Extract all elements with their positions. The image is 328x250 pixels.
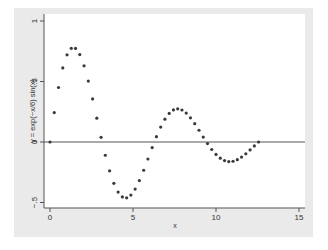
data-point bbox=[236, 158, 239, 161]
y-tick-label: 1 bbox=[30, 18, 39, 23]
x-tick-label: 5 bbox=[131, 213, 136, 222]
data-point bbox=[172, 108, 175, 111]
data-point bbox=[257, 140, 260, 143]
data-point bbox=[163, 118, 166, 121]
data-point bbox=[142, 169, 145, 172]
data-point bbox=[214, 153, 217, 156]
data-point bbox=[155, 135, 158, 138]
data-point bbox=[185, 111, 188, 114]
data-point bbox=[227, 160, 230, 163]
data-point bbox=[219, 157, 222, 160]
data-point bbox=[168, 112, 171, 115]
data-point bbox=[117, 190, 120, 193]
data-point bbox=[53, 111, 56, 114]
data-point bbox=[244, 152, 247, 155]
data-point bbox=[104, 154, 107, 157]
data-point bbox=[78, 53, 81, 56]
data-point bbox=[202, 135, 205, 138]
data-point bbox=[240, 156, 243, 159]
data-point bbox=[82, 64, 85, 67]
data-point bbox=[193, 122, 196, 125]
data-point bbox=[70, 47, 73, 50]
data-point bbox=[146, 157, 149, 160]
data-point bbox=[95, 117, 98, 120]
data-point bbox=[138, 179, 141, 182]
data-point bbox=[108, 169, 111, 172]
chart: 051015−.50.51 x y = exp(−x/6) sin(x) bbox=[0, 0, 328, 250]
data-point bbox=[197, 129, 200, 132]
data-point bbox=[48, 140, 51, 143]
data-point bbox=[253, 144, 256, 147]
data-point bbox=[231, 160, 234, 163]
x-tick-label: 0 bbox=[48, 213, 53, 222]
data-point bbox=[65, 53, 68, 56]
data-point bbox=[159, 125, 162, 128]
data-point bbox=[129, 193, 132, 196]
data-point bbox=[223, 159, 226, 162]
data-point bbox=[74, 47, 77, 50]
x-tick-label: 15 bbox=[295, 213, 304, 222]
y-axis-label: y = exp(−x/6) sin(x) bbox=[28, 78, 37, 143]
data-point bbox=[180, 108, 183, 111]
data-point bbox=[99, 136, 102, 139]
data-point bbox=[189, 116, 192, 119]
data-point bbox=[112, 182, 115, 185]
data-point bbox=[210, 148, 213, 151]
data-point bbox=[57, 86, 60, 89]
data-point bbox=[121, 195, 124, 198]
data-point bbox=[151, 146, 154, 149]
data-point bbox=[87, 79, 90, 82]
y-tick-label: −.5 bbox=[30, 196, 39, 208]
data-point bbox=[91, 97, 94, 100]
x-axis-label: x bbox=[173, 222, 177, 229]
data-point bbox=[176, 107, 179, 110]
data-point bbox=[248, 148, 251, 151]
data-point bbox=[206, 142, 209, 145]
data-point bbox=[61, 66, 64, 69]
data-point bbox=[125, 196, 128, 199]
data-point bbox=[134, 187, 137, 190]
x-tick-label: 10 bbox=[212, 213, 221, 222]
